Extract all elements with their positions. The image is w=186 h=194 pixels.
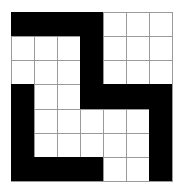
grid-cell-r1-c6[interactable] (149, 36, 172, 60)
grid-cell-r3-c2[interactable] (57, 84, 80, 108)
grid-cell-r0-c2[interactable] (57, 12, 80, 36)
grid-cell-r6-c2[interactable] (57, 157, 80, 181)
grid-cell-r1-c5[interactable] (126, 36, 149, 60)
grid-cell-r1-c3[interactable] (80, 36, 103, 60)
grid-cell-r6-c4[interactable] (103, 157, 126, 181)
grid-cell-r4-c2[interactable] (57, 109, 80, 133)
grid-cell-r6-c3[interactable] (80, 157, 103, 181)
grid-cell-r4-c5[interactable] (126, 109, 149, 133)
grid-cell-r4-c6[interactable] (149, 109, 172, 133)
puzzle-grid (11, 12, 173, 182)
grid-cell-r3-c5[interactable] (126, 84, 149, 108)
grid-cell-r5-c4[interactable] (103, 133, 126, 157)
grid-cell-r3-c4[interactable] (103, 84, 126, 108)
grid-cell-r6-c0[interactable] (11, 157, 34, 181)
grid-cell-r5-c1[interactable] (34, 133, 57, 157)
grid-cell-r6-c6[interactable] (149, 157, 172, 181)
grid-cell-r2-c0[interactable] (11, 60, 34, 84)
grid-cell-r0-c1[interactable] (34, 12, 57, 36)
grid-cell-r0-c5[interactable] (126, 12, 149, 36)
grid-cell-r1-c4[interactable] (103, 36, 126, 60)
grid-cell-r2-c3[interactable] (80, 60, 103, 84)
grid-cell-r3-c3[interactable] (80, 84, 103, 108)
grid-cell-r2-c5[interactable] (126, 60, 149, 84)
grid-cell-r0-c4[interactable] (103, 12, 126, 36)
grid-cell-r4-c0[interactable] (11, 109, 34, 133)
grid-cell-r3-c6[interactable] (149, 84, 172, 108)
grid-cell-r0-c0[interactable] (11, 12, 34, 36)
grid-cell-r0-c6[interactable] (149, 12, 172, 36)
grid-cell-r5-c6[interactable] (149, 133, 172, 157)
grid-cell-r3-c1[interactable] (34, 84, 57, 108)
grid-cell-r5-c3[interactable] (80, 133, 103, 157)
grid-cell-r0-c3[interactable] (80, 12, 103, 36)
grid-cell-r2-c6[interactable] (149, 60, 172, 84)
grid-cell-r2-c1[interactable] (34, 60, 57, 84)
grid-cell-r4-c1[interactable] (34, 109, 57, 133)
grid-cell-r1-c1[interactable] (34, 36, 57, 60)
grid-cell-r1-c2[interactable] (57, 36, 80, 60)
grid-cell-r2-c4[interactable] (103, 60, 126, 84)
grid-cell-r2-c2[interactable] (57, 60, 80, 84)
grid-cell-r6-c5[interactable] (126, 157, 149, 181)
grid-cell-r1-c0[interactable] (11, 36, 34, 60)
grid-cell-r5-c0[interactable] (11, 133, 34, 157)
grid-cell-r5-c2[interactable] (57, 133, 80, 157)
grid-cell-r4-c3[interactable] (80, 109, 103, 133)
grid-cell-r5-c5[interactable] (126, 133, 149, 157)
grid-cell-r4-c4[interactable] (103, 109, 126, 133)
grid-cell-r3-c0[interactable] (11, 84, 34, 108)
grid-cell-r6-c1[interactable] (34, 157, 57, 181)
